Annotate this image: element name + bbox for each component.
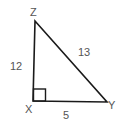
vertex-label-x: X bbox=[25, 103, 33, 115]
right-triangle-diagram: Z X Y 12 13 5 bbox=[0, 0, 123, 124]
right-angle-marker bbox=[34, 89, 46, 101]
side-label-xy: 5 bbox=[63, 109, 69, 121]
side-label-xz: 12 bbox=[10, 60, 22, 72]
vertex-label-y: Y bbox=[108, 99, 116, 111]
vertex-label-z: Z bbox=[30, 6, 37, 18]
triangle-xyz bbox=[33, 21, 107, 102]
side-label-zy: 13 bbox=[78, 46, 90, 58]
